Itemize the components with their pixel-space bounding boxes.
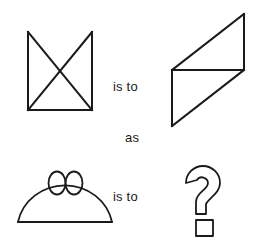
- figure-rotated-parallelogram: [158, 8, 258, 130]
- connector-label-as: as: [125, 131, 139, 144]
- dome-ellipse-left: [49, 172, 66, 195]
- figure-square-with-x-open-top: [22, 28, 114, 116]
- dome-ellipse-right: [66, 172, 83, 195]
- dome-arc: [18, 185, 112, 222]
- x-diagonals: [28, 32, 92, 110]
- question-mark-dot: [196, 220, 213, 236]
- question-mark-hook: [186, 166, 220, 214]
- visual-analogy-puzzle: is to as is to: [0, 0, 262, 244]
- figure-question-mark: [180, 160, 242, 240]
- figure-dome-with-ellipses: [10, 160, 120, 236]
- connector-label-is-to-first: is to: [113, 80, 138, 93]
- connector-label-is-to-second: is to: [113, 190, 138, 203]
